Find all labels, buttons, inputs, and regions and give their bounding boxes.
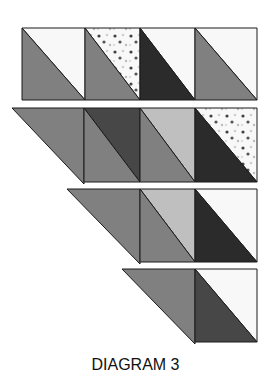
row-2-edge-triangle <box>12 108 84 184</box>
quilt-diagram <box>0 0 271 381</box>
row-3-edge-triangle <box>67 189 140 264</box>
diagram-caption: DIAGRAM 3 <box>0 356 271 374</box>
quilt-rows <box>12 28 257 344</box>
row-4-edge-triangle <box>122 269 195 344</box>
